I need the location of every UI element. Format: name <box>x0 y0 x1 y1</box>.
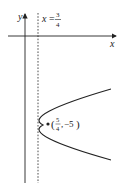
svg-text:(: ( <box>51 118 55 131</box>
parabola-curve <box>39 89 111 160</box>
svg-text:−5: −5 <box>64 119 74 129</box>
svg-text:): ) <box>76 118 80 131</box>
parabola-diagram: y x x = 3 4 ( 5 4 , −5 ) <box>0 0 122 183</box>
directrix-label: x = 3 4 <box>41 11 61 29</box>
svg-text:5: 5 <box>56 116 59 123</box>
svg-text:,: , <box>61 119 63 129</box>
focus-label: ( 5 4 , −5 ) <box>51 116 80 132</box>
y-axis-label: y <box>17 11 23 22</box>
svg-text:4: 4 <box>56 125 60 132</box>
svg-text:3: 3 <box>56 11 60 19</box>
svg-text:x: x <box>41 13 47 24</box>
focus-dot <box>46 122 49 125</box>
svg-text:4: 4 <box>56 21 60 29</box>
x-axis-label: x <box>109 38 115 49</box>
svg-text:=: = <box>49 13 55 24</box>
